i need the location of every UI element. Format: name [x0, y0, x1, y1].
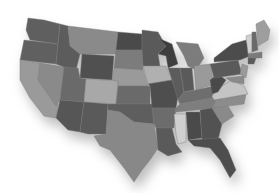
- state-az: [56, 100, 84, 132]
- state-mt: [68, 26, 118, 54]
- state-nd: [116, 32, 142, 50]
- state-wa: [26, 18, 60, 44]
- state-or: [20, 40, 58, 64]
- states-layer: [20, 18, 270, 182]
- state-ar: [152, 108, 176, 128]
- state-ks: [116, 86, 150, 104]
- state-nm: [80, 102, 108, 134]
- state-wy: [80, 54, 114, 80]
- state-sd: [114, 50, 143, 70]
- state-fl: [188, 138, 236, 178]
- state-al: [186, 112, 202, 140]
- us-map: [0, 0, 279, 193]
- state-co: [84, 79, 118, 104]
- us-map-svg: [0, 0, 279, 193]
